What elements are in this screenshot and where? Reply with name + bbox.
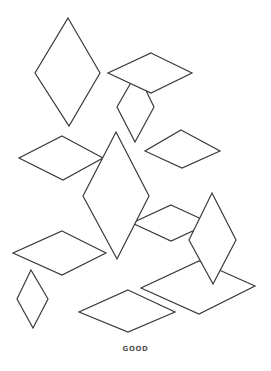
diamond-2 (108, 53, 192, 93)
diamond-4 (19, 136, 103, 180)
figure-caption: GOOD (0, 345, 271, 353)
diamond-1 (35, 18, 100, 126)
diamond-5 (83, 132, 149, 259)
diamond-11 (17, 270, 48, 328)
diamond-6 (145, 130, 220, 168)
diamond-10 (13, 231, 106, 275)
diamond-figure (0, 0, 271, 371)
diamond-shapes-group (13, 18, 255, 332)
